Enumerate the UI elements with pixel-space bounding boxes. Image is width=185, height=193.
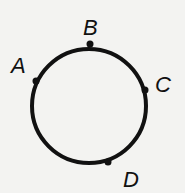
label-a: A [9,53,26,78]
point-d [105,159,112,166]
circle-diagram: A B C D [0,0,185,193]
point-a [33,78,40,85]
point-c [142,87,149,94]
point-b [87,41,94,48]
label-c: C [155,72,171,97]
label-d: D [123,167,139,192]
label-b: B [83,15,98,40]
circle [32,49,146,163]
